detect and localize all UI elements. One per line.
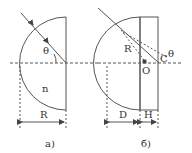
radius-label-b: R bbox=[124, 44, 132, 54]
index-label-a: n bbox=[42, 84, 48, 94]
angle-label-a: θ bbox=[43, 46, 49, 56]
angle-label-b: θ bbox=[168, 49, 174, 59]
radius-label-a: R bbox=[40, 110, 48, 120]
point-label-b: C bbox=[160, 54, 168, 64]
lens-slab-b bbox=[94, 8, 183, 128]
hemisphere-lens-a bbox=[10, 13, 98, 128]
center-label-b: O bbox=[142, 66, 150, 76]
caption-a: а) bbox=[45, 139, 55, 149]
depth-label-b: D bbox=[119, 110, 127, 120]
caption-b: б) bbox=[141, 139, 151, 149]
diagram-canvas bbox=[0, 0, 192, 153]
thickness-label-b: H bbox=[144, 110, 153, 120]
